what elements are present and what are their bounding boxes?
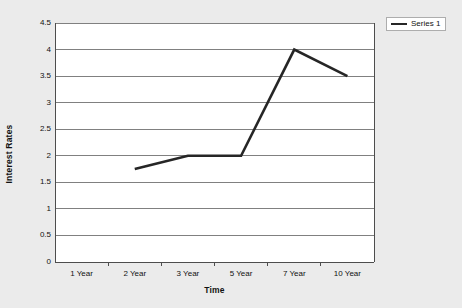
x-axis-tick-label: 3 Year — [177, 270, 200, 278]
line-chart: Interest Rates 00.511.522.533.544.5 1 Ye… — [0, 0, 462, 308]
x-axis-title: Time — [55, 285, 374, 295]
x-axis-tick-label: 2 Year — [123, 270, 146, 278]
x-axis-tick-label: 10 Year — [334, 270, 361, 278]
x-axis-tick-label: 1 Year — [70, 270, 93, 278]
legend-line-swatch-icon — [391, 23, 407, 25]
x-axis-tick-label: 5 Year — [230, 270, 253, 278]
chart-legend[interactable]: Series 1 — [386, 17, 446, 31]
x-axis-tick-labels: 1 Year2 Year3 Year5 Year7 Year10 Year — [0, 0, 462, 308]
x-axis-tick-label: 7 Year — [283, 270, 306, 278]
legend-entry-label: Series 1 — [411, 20, 440, 28]
